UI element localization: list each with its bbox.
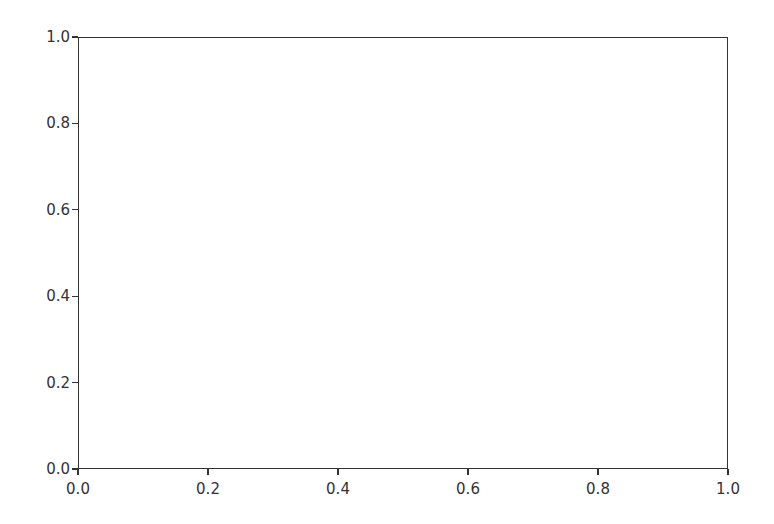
x-tick-mark — [727, 469, 728, 475]
y-tick-label: 0.6 — [46, 201, 70, 219]
x-tick-mark — [597, 469, 598, 475]
x-tick-label: 0.6 — [456, 480, 480, 498]
x-tick-mark — [337, 469, 338, 475]
x-tick-label: 1.0 — [716, 480, 740, 498]
y-tick-mark — [72, 209, 78, 210]
y-tick-mark — [72, 123, 78, 124]
y-tick-label: 0.8 — [46, 114, 70, 132]
x-tick-mark — [467, 469, 468, 475]
y-tick-mark — [72, 36, 78, 37]
x-tick-label: 0.0 — [66, 480, 90, 498]
y-tick-label: 0.0 — [46, 460, 70, 478]
plot-area — [78, 37, 728, 469]
x-tick-label: 0.4 — [326, 480, 350, 498]
x-tick-label: 0.2 — [196, 480, 220, 498]
x-tick-mark — [77, 469, 78, 475]
y-tick-label: 1.0 — [46, 28, 70, 46]
y-tick-mark — [72, 468, 78, 469]
x-tick-label: 0.8 — [586, 480, 610, 498]
y-tick-mark — [72, 382, 78, 383]
y-tick-label: 0.2 — [46, 374, 70, 392]
y-tick-label: 0.4 — [46, 287, 70, 305]
x-tick-mark — [207, 469, 208, 475]
y-tick-mark — [72, 296, 78, 297]
